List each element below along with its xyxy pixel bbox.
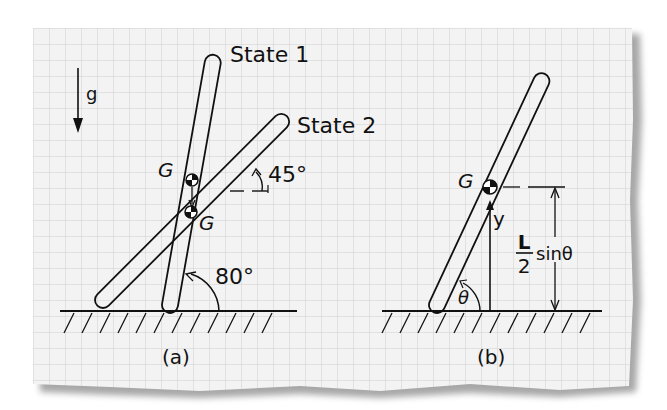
y-label: y [493, 207, 505, 231]
panel-a-caption: (a) [162, 345, 190, 369]
com-label-state-2: G [199, 211, 215, 235]
rod-diagram: g State 1 State 2 G G [0, 0, 667, 410]
angle-45-label: 45° [268, 162, 307, 187]
theta-label: θ [458, 287, 469, 308]
com-marker-state-2 [185, 206, 197, 218]
com-label-b: G [458, 169, 474, 193]
com-marker-state-1 [186, 174, 198, 186]
state-2-label: State 2 [297, 113, 376, 138]
state-1-label: State 1 [230, 42, 309, 67]
gravity-label: g [86, 83, 97, 104]
graph-paper [33, 28, 642, 398]
formula-suffix: sinθ [536, 243, 573, 264]
com-marker-b [483, 180, 497, 194]
angle-80-label: 80° [215, 264, 254, 289]
panel-b-caption: (b) [477, 345, 505, 369]
formula-numerator: L [518, 230, 531, 254]
com-label-state-1: G [158, 158, 174, 182]
formula-denominator: 2 [518, 254, 531, 278]
